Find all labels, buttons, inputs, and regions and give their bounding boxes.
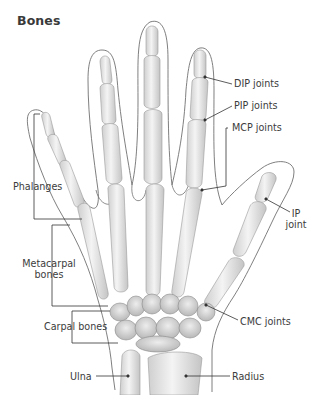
hand-skeleton-illustration xyxy=(0,0,309,395)
label-carpal-bones: Carpal bones xyxy=(44,321,107,332)
label-metacarpal-bones: Metacarpal bones xyxy=(20,258,78,280)
ulna-bone xyxy=(120,350,140,395)
radius-bone xyxy=(148,352,202,395)
thumb-bones xyxy=(205,173,277,308)
ring-finger-bones xyxy=(100,56,128,292)
label-radius: Radius xyxy=(232,371,264,382)
label-phalanges: Phalanges xyxy=(13,181,62,192)
label-dip-joints: DIP joints xyxy=(234,78,279,89)
label-cmc-joints: CMC joints xyxy=(240,316,291,327)
label-metacarpal-line2: bones xyxy=(20,269,78,280)
label-ulna: Ulna xyxy=(70,371,92,382)
carpal-bones xyxy=(110,294,215,352)
middle-finger-bones xyxy=(144,26,164,296)
label-ip-joint-line2: joint xyxy=(283,219,309,230)
label-ip-joint: IP joint xyxy=(283,208,309,230)
label-ip-joint-line1: IP xyxy=(283,208,309,219)
index-finger-bones xyxy=(172,50,208,297)
label-metacarpal-line1: Metacarpal xyxy=(20,258,78,269)
label-mcp-joints: MCP joints xyxy=(232,122,282,133)
finger-web-outline xyxy=(132,185,146,201)
label-pip-joints: PIP joints xyxy=(234,100,278,111)
